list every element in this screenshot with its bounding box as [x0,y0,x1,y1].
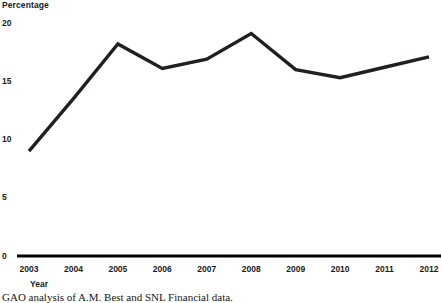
x-tick-label: 2003 [20,264,39,274]
source-note: GAO analysis of A.M. Best and SNL Financ… [2,291,233,303]
x-tick-label: 2012 [420,264,439,274]
x-tick-label: 2008 [242,264,261,274]
x-tick-label: 2010 [331,264,350,274]
x-tick-label: 2009 [286,264,305,274]
x-tick-label: 2006 [153,264,172,274]
x-tick-label: 2011 [375,264,393,274]
x-tick-label: 2004 [64,264,83,274]
data-series-line [29,33,429,151]
line-chart-figure: Percentage 05101520 20032004200520062007… [0,0,442,303]
x-tick-label: 2007 [197,264,216,274]
x-axis-title: Year [30,279,48,289]
plot-area [0,0,442,303]
x-tick-label: 2005 [108,264,127,274]
